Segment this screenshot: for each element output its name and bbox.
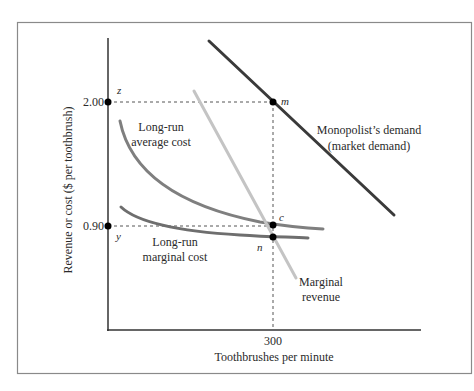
demand-label-line2: (market demand)	[328, 139, 410, 153]
point-y-label: y	[115, 230, 121, 242]
point-n-marker	[270, 234, 277, 241]
point-c-label: c	[279, 211, 284, 223]
average-cost-label-line2: average cost	[131, 135, 191, 149]
marginal-revenue-label-line1: Marginal	[299, 275, 343, 289]
x-axis-title: Toothbrushes per minute	[214, 350, 333, 364]
marginal-cost-label-line1: Long-run	[152, 235, 197, 249]
average-cost-label-line1: Long-run	[138, 120, 183, 134]
demand-label-line1: Monopolist’s demand	[317, 123, 421, 137]
point-z-label: z	[116, 84, 122, 96]
x-tick-300: 300	[264, 334, 282, 348]
y-tick-2-00: 2.00	[83, 95, 104, 109]
y-axis-title: Revenue or cost ($ per toothbrush)	[61, 107, 75, 274]
y-tick-0-90: 0.90	[83, 219, 104, 233]
point-c-marker	[270, 222, 277, 229]
monopoly-chart: z m y c n 2.00 0.90 300 Toothbrushes per…	[0, 0, 474, 391]
point-m-marker	[270, 99, 277, 106]
point-n-label: n	[257, 241, 263, 253]
marginal-revenue-label-line2: revenue	[302, 290, 340, 304]
point-m-label: m	[281, 95, 289, 107]
point-z-marker	[105, 99, 112, 106]
point-y-marker	[105, 223, 112, 230]
marginal-cost-label-line2: marginal cost	[143, 250, 208, 264]
marginal-revenue-line	[194, 91, 296, 278]
